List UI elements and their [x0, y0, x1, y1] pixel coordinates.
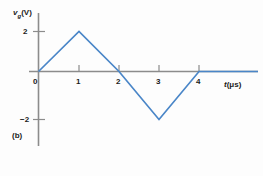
waveform-trace [39, 32, 259, 120]
y-tick-label-positive-2: 2 [23, 27, 27, 36]
y-axis-title: vg(V) [13, 8, 32, 19]
x-tick-label-3: 3 [156, 77, 160, 86]
x-tick-label-1: 1 [76, 77, 80, 86]
y-axis-title-unit: (V) [21, 8, 32, 17]
waveform-figure: vg(V) t(μs) 0 1 2 3 4 2 −2 (b) [0, 0, 263, 176]
panel-label: (b) [12, 131, 22, 140]
y-tick-label-negative-2: −2 [20, 115, 29, 124]
x-tick-label-2: 2 [116, 77, 120, 86]
x-tick-label-4: 4 [196, 77, 200, 86]
x-tick-label-0: 0 [33, 77, 37, 86]
x-axis-title-unit: (μs) [227, 80, 242, 89]
x-axis-title: t(μs) [224, 80, 241, 89]
